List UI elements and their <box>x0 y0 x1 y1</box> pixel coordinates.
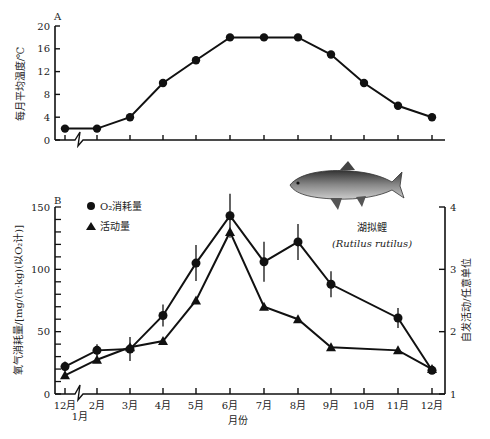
b-right-tick-label: 3 <box>450 264 456 275</box>
a-y-axis-label: 每月平均温度/℃ <box>14 47 26 122</box>
b-x-axis <box>55 385 445 400</box>
b-y-tick-label: 50 <box>37 326 50 337</box>
a-data-point <box>360 79 368 87</box>
a-x-axis <box>55 132 445 146</box>
b-activity-point <box>225 227 235 236</box>
b-o2-point <box>260 257 269 266</box>
a-data-point <box>192 56 200 64</box>
a-data-point <box>159 79 167 87</box>
a-data-point <box>61 124 69 132</box>
b-o2-point <box>327 280 336 289</box>
a-y-tick-label: 0 <box>44 135 50 146</box>
b-x-tick-label: 12月 <box>54 400 77 411</box>
b-activity-point <box>60 370 70 379</box>
fish-name-latin: (Rutilus rutilus) <box>332 238 412 249</box>
legend-o2-label: O₂消耗量 <box>100 200 142 212</box>
b-x-tick-label: 3月 <box>122 400 138 411</box>
a-data-point <box>394 102 402 110</box>
b-right-tick-label: 1 <box>450 389 456 400</box>
b-y-tick-label: 100 <box>31 264 50 275</box>
a-data-point <box>126 113 134 121</box>
fish-illustration-icon <box>290 161 404 210</box>
b-x-tick-label: 10月 <box>353 400 376 411</box>
b-x-tick-label: 8月 <box>290 400 306 411</box>
a-data-point <box>294 33 302 41</box>
panel-a-label: A <box>53 11 62 22</box>
b-x-tick-label: 5月 <box>188 400 204 411</box>
a-data-point <box>327 50 335 58</box>
a-y-tick-label: 12 <box>37 66 50 77</box>
b-o2-point <box>159 311 168 320</box>
b-o2-point <box>394 313 403 322</box>
chart-figure: A048121620每月平均温度/℃B050100150氧气消耗量/[mg/(h… <box>0 0 490 439</box>
b-x-tick-label: 4月 <box>155 400 171 411</box>
b-x-tick-label-jan: 1月 <box>72 411 88 422</box>
b-x-tick-label: 7月 <box>256 400 272 411</box>
a-data-point <box>93 124 101 132</box>
b-x-tick-label: 6月 <box>222 400 238 411</box>
b-x-tick-label: 11月 <box>387 400 410 411</box>
b-x-tick-label: 12月 <box>421 400 444 411</box>
b-y-axis-label: 氧气消耗量/[mg/(h·kg)(以O₂计)] <box>12 225 24 375</box>
b-o2-point <box>93 346 102 355</box>
b-activity-point <box>191 296 201 305</box>
a-data-point <box>260 33 268 41</box>
fish-name-cn: 湖拟鲤 <box>357 221 387 233</box>
b-x-tick-label: 9月 <box>323 400 339 411</box>
b-x-axis-label: 月份 <box>228 415 248 426</box>
legend-activity-label: 活动量 <box>100 221 130 232</box>
b-o2-point <box>226 211 235 220</box>
b-right-tick-label: 4 <box>450 202 456 213</box>
b-y-tick-label: 0 <box>44 389 50 400</box>
b-o2-point <box>61 362 70 371</box>
b-y-tick-label: 150 <box>31 202 50 213</box>
legend-circle-icon <box>87 202 95 210</box>
b-x-tick-label: 2月 <box>89 400 105 411</box>
b-o2-point <box>294 237 303 246</box>
b-activity-line <box>65 232 432 375</box>
a-y-tick-label: 20 <box>37 21 50 32</box>
legend-triangle-icon <box>86 222 96 230</box>
a-y-tick-label: 16 <box>37 43 50 54</box>
b-o2-point <box>192 259 201 268</box>
panel-b-label: B <box>54 195 61 206</box>
a-data-point <box>428 113 436 121</box>
b-right-axis-label: 自发活动/任意单位 <box>460 258 472 341</box>
b-right-tick-label: 2 <box>450 326 456 337</box>
a-temperature-line <box>65 37 432 128</box>
a-data-point <box>226 33 234 41</box>
b-activity-point <box>259 302 269 311</box>
a-y-tick-label: 8 <box>44 89 50 100</box>
a-y-tick-label: 4 <box>44 112 50 123</box>
